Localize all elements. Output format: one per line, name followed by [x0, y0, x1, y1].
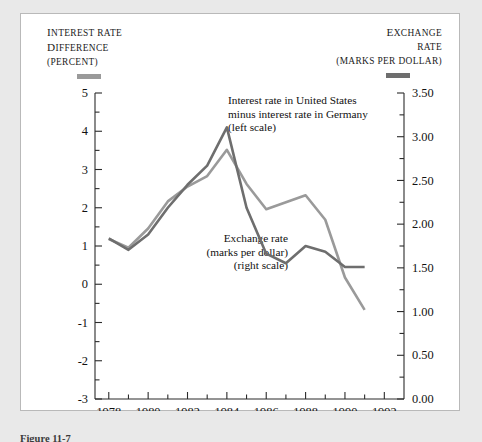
interest-difference-line	[109, 127, 365, 267]
x-tick-label: 1986	[254, 405, 279, 411]
right-tick-label: 2.00	[412, 217, 434, 231]
right-tick-label: 1.50	[412, 261, 434, 275]
x-tick-label: 1982	[175, 405, 200, 411]
left-tick-label: -3	[78, 392, 88, 406]
x-tick-label: 1988	[293, 405, 318, 411]
left-tick-label: 1	[82, 239, 88, 253]
right-tick-label: 0.00	[412, 392, 434, 406]
right-tick-label: 3.50	[412, 86, 434, 100]
page-edge-left	[0, 0, 20, 442]
left-tick-label: 4	[82, 124, 88, 138]
left-tick-label: -2	[78, 354, 88, 368]
chart-plot: 543210-1-2-33.503.002.502.001.501.000.50…	[20, 13, 460, 411]
right-tick-label: 2.50	[412, 174, 434, 188]
right-tick-label: 0.50	[412, 348, 434, 362]
right-tick-label: 1.00	[412, 305, 434, 319]
left-tick-label: -1	[78, 316, 88, 330]
left-tick-label: 3	[82, 163, 88, 177]
x-tick-label: 1978	[96, 405, 121, 411]
figure-page: IINTEREST RATENTEREST RATE DIFFERENCE (P…	[0, 0, 482, 442]
page-edge-top	[0, 0, 482, 13]
right-tick-label: 3.00	[412, 130, 434, 144]
x-tick-label: 1984	[214, 405, 239, 411]
x-tick-label: 1992	[372, 405, 397, 411]
figure-caption: Figure 11-7	[20, 433, 71, 442]
exchange-rate-line	[109, 150, 365, 310]
x-tick-label: 1980	[136, 405, 161, 411]
left-tick-label: 0	[82, 277, 88, 291]
x-tick-label: 1990	[333, 405, 358, 411]
left-tick-label: 5	[82, 86, 88, 100]
left-tick-label: 2	[82, 201, 88, 215]
